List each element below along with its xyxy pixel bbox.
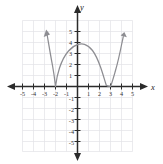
y-tick-label: 1 (69, 72, 72, 79)
y-tick-label: 5 (69, 28, 72, 35)
y-tick-label: -4 (69, 128, 74, 135)
y-axis (74, 5, 81, 161)
x-tick-label: 5 (131, 90, 134, 97)
x-tick-label: -4 (31, 90, 36, 97)
y-tick-label: -5 (69, 139, 74, 146)
x-tick-label: -5 (20, 90, 25, 97)
x-tick-label: -2 (53, 90, 58, 97)
quartic-curve-path (47, 34, 123, 87)
x-axis-arrow-right (140, 83, 148, 90)
x-tick-label: 1 (87, 90, 90, 97)
y-axis-arrow-down (74, 153, 81, 161)
x-axis-arrow-left (7, 83, 15, 90)
y-axis-label: y (79, 2, 84, 12)
coordinate-plane-svg: -5 -4 -3 -2 -1 1 2 3 4 5 5 4 3 2 1 -1 -2… (0, 0, 163, 164)
x-tick-label: 2 (98, 90, 101, 97)
y-tick-label: 4 (69, 39, 72, 46)
x-tick-label: -3 (42, 90, 47, 97)
x-axis-label: x (150, 82, 155, 92)
x-tick-label: 3 (109, 90, 112, 97)
y-tick-label: 2 (69, 61, 72, 68)
y-tick-label: -2 (69, 106, 74, 113)
y-tick-label: -1 (69, 95, 74, 102)
graph-figure: -5 -4 -3 -2 -1 1 2 3 4 5 5 4 3 2 1 -1 -2… (0, 0, 163, 164)
y-tick-label: -3 (69, 117, 74, 124)
x-tick-label: 4 (120, 90, 123, 97)
quartic-curve (44, 30, 127, 87)
